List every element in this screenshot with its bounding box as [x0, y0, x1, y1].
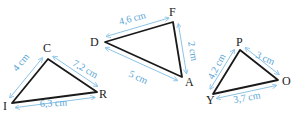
side-length-label: 2 cm — [186, 40, 200, 62]
side-length-label: 4 cm — [10, 51, 31, 73]
vertex-label: C — [43, 41, 51, 55]
vertex-label: D — [90, 35, 99, 49]
triangle-outline — [105, 22, 182, 77]
vertex-label: F — [169, 5, 176, 19]
vertex-label: P — [236, 35, 243, 49]
vertex-label: I — [3, 99, 7, 113]
side-length-label: 3,7 cm — [232, 89, 261, 105]
vertex-label: A — [185, 75, 194, 89]
side-length-label: 4,6 cm — [118, 9, 147, 27]
vertex-label: R — [99, 87, 107, 101]
triangle-pyo: 4,2 cm3 cm3,7 cmPYO — [205, 35, 291, 107]
vertex-label: O — [282, 74, 291, 88]
vertex-label: Y — [206, 93, 215, 107]
side-length-label: 5 cm — [127, 68, 150, 86]
triangle-cir: 4 cm7,2 cm6,3 cmCIR — [3, 41, 107, 113]
triangles-diagram: 4 cm7,2 cm6,3 cmCIR4,6 cm2 cm5 cmDFA4,2 … — [0, 0, 293, 113]
triangle-dfa: 4,6 cm2 cm5 cmDFA — [90, 5, 200, 89]
